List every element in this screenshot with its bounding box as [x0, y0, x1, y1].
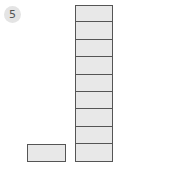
- column-cell: [75, 57, 113, 74]
- column-cell: [75, 127, 113, 144]
- tall-block-column: [75, 5, 113, 162]
- column-cell: [75, 5, 113, 22]
- single-block: [27, 144, 66, 162]
- column-cell: [75, 22, 113, 39]
- column-cell: [75, 75, 113, 92]
- column-cell: [75, 40, 113, 57]
- column-cell: [75, 109, 113, 126]
- problem-number-badge: 5: [4, 6, 21, 23]
- column-cell: [75, 92, 113, 109]
- column-cell: [75, 144, 113, 161]
